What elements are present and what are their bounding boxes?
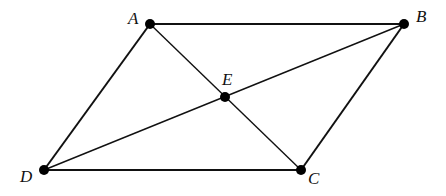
point-d <box>39 165 49 175</box>
parallelogram-diagram: A B C D E <box>0 0 446 196</box>
label-e: E <box>221 70 233 89</box>
label-d: D <box>19 167 33 186</box>
label-a: A <box>127 9 139 28</box>
label-c: C <box>308 169 320 188</box>
point-c <box>296 165 306 175</box>
label-b: B <box>416 7 427 26</box>
side-bc <box>301 24 404 170</box>
point-b <box>399 19 409 29</box>
point-e <box>220 92 230 102</box>
point-a <box>145 19 155 29</box>
